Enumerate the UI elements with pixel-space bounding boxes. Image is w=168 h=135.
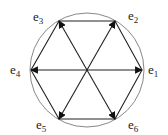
vector-e5	[59, 70, 87, 119]
label-e3: e3	[33, 9, 44, 26]
vector-e6	[87, 70, 115, 119]
label-e4: e4	[10, 62, 21, 79]
label-e5: e5	[36, 117, 47, 134]
label-e2: e2	[128, 8, 138, 25]
label-e1: e1	[148, 62, 158, 79]
hexagon-vector-diagram: e1e2e3e4e5e6	[0, 0, 168, 135]
vector-arrows	[31, 21, 142, 119]
vector-e3	[59, 21, 87, 70]
vector-e2	[87, 21, 115, 70]
label-e6: e6	[128, 117, 139, 134]
vector-labels: e1e2e3e4e5e6	[10, 8, 158, 134]
